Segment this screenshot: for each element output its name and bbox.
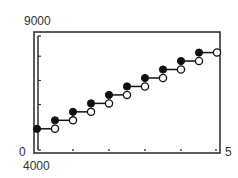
open-endpoint xyxy=(87,108,94,115)
filled-endpoint xyxy=(195,49,202,56)
filled-endpoint xyxy=(141,74,148,81)
x-tick xyxy=(144,149,146,151)
filled-endpoint xyxy=(87,100,94,107)
open-endpoint xyxy=(105,100,112,107)
filled-endpoint xyxy=(33,125,40,132)
filled-endpoint xyxy=(159,66,166,73)
filled-endpoint xyxy=(123,83,130,90)
x-tick xyxy=(108,149,110,151)
open-endpoint xyxy=(159,74,166,81)
open-endpoint xyxy=(123,91,130,98)
open-endpoint xyxy=(51,125,58,132)
x-tick xyxy=(72,149,74,151)
open-endpoint xyxy=(195,57,202,64)
filled-endpoint xyxy=(69,108,76,115)
filled-endpoint xyxy=(51,117,58,124)
filled-endpoint xyxy=(105,91,112,98)
step-chart xyxy=(0,0,238,178)
open-endpoint xyxy=(177,66,184,73)
open-endpoint xyxy=(141,83,148,90)
x-tick xyxy=(180,149,182,151)
open-endpoint xyxy=(69,117,76,124)
filled-endpoint xyxy=(177,57,184,64)
open-endpoint xyxy=(213,49,220,56)
x-tick xyxy=(215,149,217,151)
